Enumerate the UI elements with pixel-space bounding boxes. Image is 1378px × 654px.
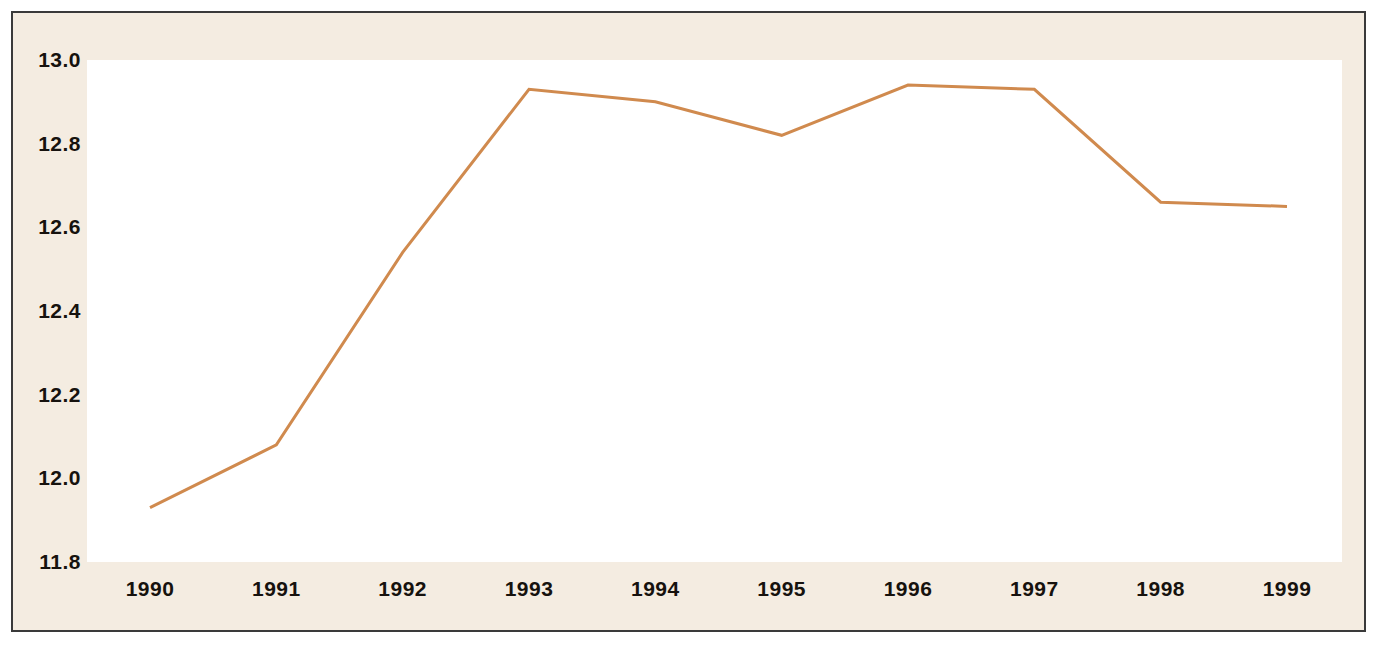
x-tick-label: 1998 — [1136, 578, 1185, 599]
y-axis-tick-labels: 13.012.812.612.412.212.011.8 — [13, 13, 81, 634]
x-tick-label: 1992 — [378, 578, 427, 599]
y-tick-label: 11.8 — [19, 551, 81, 572]
line-chart-svg — [87, 60, 1342, 562]
data-series-line — [150, 85, 1287, 508]
x-tick-label: 1999 — [1263, 578, 1312, 599]
x-axis-tick-labels: 1990199119921993199419951996199719981999 — [87, 578, 1342, 618]
y-tick-label: 12.4 — [19, 300, 81, 321]
x-tick-label: 1997 — [1010, 578, 1059, 599]
x-tick-label: 1991 — [252, 578, 301, 599]
plot-area — [87, 60, 1342, 562]
y-tick-label: 12.0 — [19, 467, 81, 488]
y-tick-label: 12.6 — [19, 216, 81, 237]
chart-figure: 13.012.812.612.412.212.011.8 19901991199… — [0, 0, 1378, 654]
x-tick-label: 1990 — [126, 578, 175, 599]
y-tick-label: 12.8 — [19, 133, 81, 154]
y-tick-label: 13.0 — [19, 49, 81, 70]
x-tick-label: 1995 — [757, 578, 806, 599]
x-tick-label: 1994 — [631, 578, 680, 599]
x-tick-label: 1993 — [505, 578, 554, 599]
chart-frame-border: 13.012.812.612.412.212.011.8 19901991199… — [11, 11, 1366, 632]
x-tick-label: 1996 — [884, 578, 933, 599]
y-tick-label: 12.2 — [19, 384, 81, 405]
